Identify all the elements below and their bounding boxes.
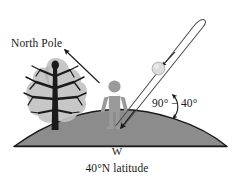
label-cardinal-west: W bbox=[0, 146, 234, 157]
person-foot-left bbox=[107, 126, 114, 129]
label-north-pole: North Pole bbox=[11, 38, 62, 50]
label-latitude: 40°N latitude bbox=[0, 163, 234, 175]
sun-disk bbox=[152, 62, 165, 75]
person-head bbox=[108, 80, 120, 92]
person-leg-left bbox=[109, 111, 113, 128]
sun-angle-diagram: North Pole 90° − 40° W 40°N latitude bbox=[0, 0, 234, 182]
person-torso bbox=[109, 96, 120, 112]
label-angle: 90° − 40° bbox=[152, 98, 197, 110]
